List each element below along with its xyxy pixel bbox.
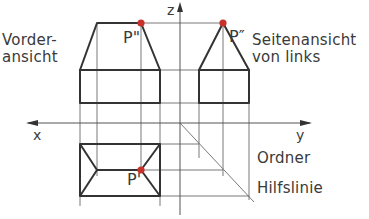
ordner-label: Ordner — [257, 150, 310, 166]
axis-x-label: x — [33, 127, 42, 143]
point-p-front-label: P" — [123, 30, 140, 46]
point-p-front — [137, 19, 144, 26]
front-view-roof — [80, 23, 160, 70]
side-view-label-line1: Seitenansicht — [252, 32, 356, 48]
z-arrow-icon — [177, 2, 183, 12]
x-arrow-icon — [26, 120, 38, 126]
axis-z-label: z — [167, 2, 175, 18]
axis-y-label: y — [296, 127, 305, 143]
point-p-side-label: P″ — [229, 29, 245, 45]
point-p-top-label: P' — [127, 172, 141, 188]
front-view-label-line2: ansicht — [2, 49, 58, 65]
hilfslinie-diagonal — [180, 123, 254, 202]
point-p-side — [219, 19, 226, 26]
construction-lines — [80, 23, 254, 206]
front-view-label-line1: Vorder- — [2, 32, 57, 48]
hilfslinie-label: Hilfslinie — [257, 180, 323, 196]
side-view-base — [199, 70, 249, 103]
front-view-base — [80, 70, 160, 103]
y-arrow-icon — [300, 120, 312, 126]
side-view-label-line2: von links — [252, 49, 320, 65]
